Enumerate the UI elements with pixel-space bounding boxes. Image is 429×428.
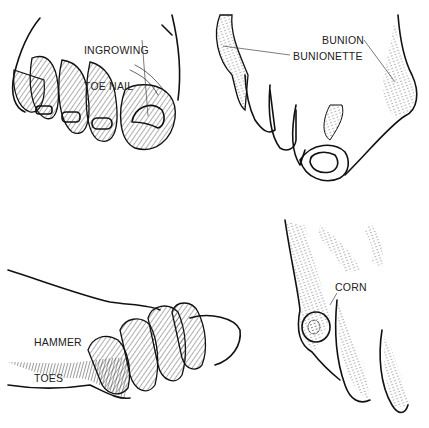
label-line: HAMMER bbox=[34, 336, 82, 348]
label-line: INGROWING bbox=[84, 44, 149, 56]
label-ingrowing-toe-nail: INGROWING TOE NAIL bbox=[84, 20, 149, 104]
label-line: TOES bbox=[34, 372, 82, 384]
label-corn: CORN bbox=[335, 281, 367, 293]
bunion-drawing bbox=[216, 15, 416, 181]
corn-drawing bbox=[285, 220, 410, 413]
label-bunion: BUNION bbox=[322, 34, 364, 46]
label-line: TOE NAIL bbox=[84, 80, 149, 92]
label-hammer-toes: HAMMER TOES bbox=[34, 312, 82, 396]
label-bunionette: BUNIONETTE bbox=[293, 50, 363, 62]
